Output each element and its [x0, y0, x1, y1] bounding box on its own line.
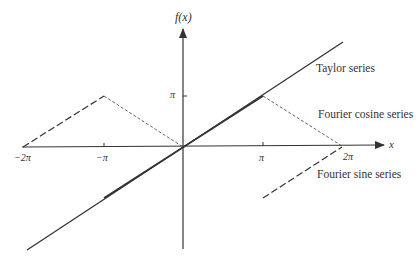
x-axis-label: x: [389, 138, 394, 150]
tick-label-pi: π: [259, 152, 264, 163]
x-axis: [22, 145, 384, 147]
tick-label-neg-2pi: −2π: [14, 152, 31, 163]
fourier-taylor-diagram: f(x) x −2π −π π 2π π Taylor series Fouri…: [0, 0, 419, 258]
y-axis-label: f(x): [175, 10, 192, 25]
tick-label-neg-pi: −π: [96, 152, 108, 163]
tick-label-2pi: 2π: [343, 151, 353, 162]
label-taylor-series: Taylor series: [316, 62, 375, 74]
fourier-left-dashed: [23, 96, 104, 147]
plot-area: [0, 0, 419, 258]
label-fourier-cosine-series: Fourier cosine series: [318, 108, 413, 120]
fourier-cosine-series-line: [104, 96, 183, 147]
tick-label-y-pi: π: [170, 89, 175, 100]
fourier-cosine-series-right: [263, 96, 342, 146]
label-fourier-sine-series: Fourier sine series: [317, 168, 401, 180]
